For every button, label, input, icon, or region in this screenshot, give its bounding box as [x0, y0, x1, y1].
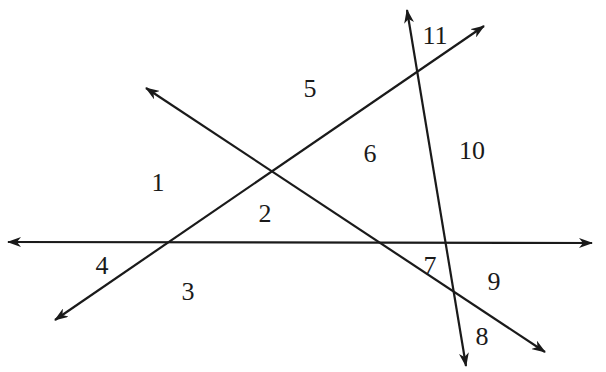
falling-line — [146, 88, 545, 352]
angle-label-1: 1 — [152, 168, 165, 197]
labels-group: 1234567891011 — [96, 21, 501, 351]
angle-label-11: 11 — [422, 21, 447, 50]
angle-label-2: 2 — [259, 199, 272, 228]
angle-label-4: 4 — [96, 251, 109, 280]
rising-line — [55, 26, 484, 320]
angle-label-5: 5 — [304, 74, 317, 103]
lines-group — [8, 10, 592, 366]
horizontal-line — [8, 242, 592, 243]
angle-label-3: 3 — [182, 277, 195, 306]
angle-label-8: 8 — [476, 322, 489, 351]
angle-label-10: 10 — [459, 136, 485, 165]
angle-label-6: 6 — [364, 139, 377, 168]
angle-diagram: 1234567891011 — [0, 0, 606, 372]
steep-line — [407, 10, 466, 366]
angle-label-7: 7 — [424, 251, 437, 280]
angle-label-9: 9 — [488, 267, 501, 296]
diagram-svg: 1234567891011 — [0, 0, 606, 372]
